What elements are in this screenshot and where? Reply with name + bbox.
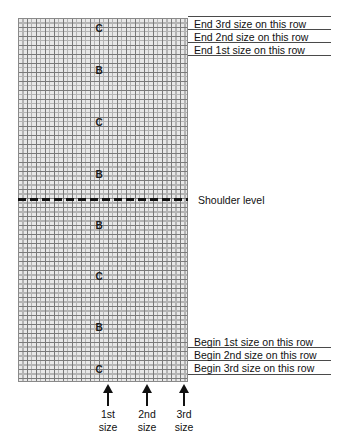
size-caption-line1: 2nd xyxy=(138,408,157,421)
arrow-shaft xyxy=(107,392,109,406)
row-marker-b-4: B xyxy=(95,221,102,231)
row-marker-b-6: B xyxy=(95,323,102,333)
row-marker-b-1: B xyxy=(95,66,102,76)
size-caption-line2: size xyxy=(175,421,194,434)
row-marker-c-0: C xyxy=(95,24,102,34)
row-marker-c-2: C xyxy=(95,118,102,128)
end-callout-2: End 1st size on this row xyxy=(194,44,305,56)
arrow-shaft xyxy=(146,392,148,406)
bottom-callout-rule-2 xyxy=(188,374,331,375)
size-caption-2: 2ndsize xyxy=(138,408,157,434)
row-marker-c-7: C xyxy=(95,365,102,375)
row-marker-b-3: B xyxy=(95,170,102,180)
size-caption-3: 3rdsize xyxy=(175,408,194,434)
size-caption-1: 1stsize xyxy=(99,408,118,434)
end-callout-0: End 3rd size on this row xyxy=(194,18,306,30)
arrow-shaft xyxy=(183,392,185,406)
row-marker-c-5: C xyxy=(95,272,102,282)
top-callout-rule-0 xyxy=(188,16,331,17)
begin-callout-0: Begin 1st size on this row xyxy=(194,336,313,348)
knitting-chart: CBCBBCBC End 3rd size on this rowEnd 2nd… xyxy=(0,0,337,442)
size-caption-line2: size xyxy=(138,421,157,434)
size-caption-line1: 1st xyxy=(99,408,118,421)
size-caption-line2: size xyxy=(99,421,118,434)
begin-callout-1: Begin 2nd size on this row xyxy=(194,349,317,361)
shoulder-level-label: Shoulder level xyxy=(198,194,265,206)
end-callout-1: End 2nd size on this row xyxy=(194,31,308,43)
size-caption-line1: 3rd xyxy=(175,408,194,421)
begin-callout-2: Begin 3rd size on this row xyxy=(194,362,314,374)
shoulder-level-line xyxy=(18,198,188,201)
